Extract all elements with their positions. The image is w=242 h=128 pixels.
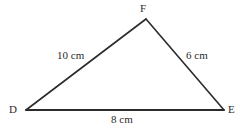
side-df-line: [26, 19, 146, 110]
triangle-shape: [0, 0, 242, 128]
triangle-figure: F D E 10 cm 6 cm 8 cm: [0, 0, 242, 128]
side-fe-line: [146, 19, 224, 110]
vertex-label-f: F: [140, 3, 146, 14]
side-length-label-fe: 6 cm: [186, 50, 208, 61]
vertex-label-d: D: [9, 104, 17, 115]
vertex-label-e: E: [228, 104, 235, 115]
side-length-label-df: 10 cm: [57, 50, 84, 61]
side-length-label-de: 8 cm: [111, 114, 133, 125]
